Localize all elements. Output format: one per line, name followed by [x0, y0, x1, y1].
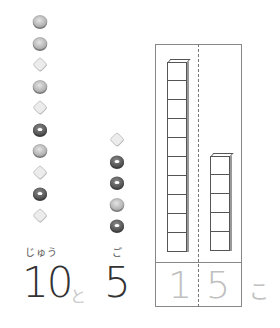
unit-block	[167, 62, 187, 81]
cookie-square-icon	[32, 100, 48, 116]
count-five: 5	[104, 262, 131, 304]
reading-go: ご	[112, 244, 123, 259]
answer-tens-digit[interactable]: 1	[168, 266, 192, 304]
count-ten: 10	[22, 262, 71, 304]
ones-block-bar	[210, 153, 230, 251]
connector-to: と	[70, 283, 86, 307]
cookie-ring-icon	[109, 154, 125, 170]
unit-block	[210, 213, 230, 232]
block-top-face	[168, 59, 191, 62]
cookie-ring-icon	[32, 122, 48, 138]
unit-block	[210, 232, 230, 251]
unit-block	[167, 195, 187, 214]
cookie-round-icon	[109, 197, 125, 213]
cookie-square-icon	[32, 165, 48, 181]
unit-block	[210, 194, 230, 213]
cookie-ring-icon	[32, 186, 48, 202]
counter-ko: こ	[249, 282, 269, 302]
block-top-face	[211, 153, 234, 156]
place-divider-dashed	[198, 44, 199, 307]
unit-block	[167, 81, 187, 100]
cookie-square-icon	[109, 132, 125, 148]
cookie-round-icon	[32, 14, 48, 30]
unit-block	[210, 175, 230, 194]
cookie-round-icon	[32, 79, 48, 95]
cookie-round-icon	[32, 143, 48, 159]
cookie-round-icon	[32, 36, 48, 52]
unit-block	[210, 156, 230, 175]
cookie-square-icon	[32, 208, 48, 224]
unit-block	[167, 138, 187, 157]
unit-block	[167, 100, 187, 119]
unit-block	[167, 233, 187, 252]
unit-block	[167, 176, 187, 195]
tens-block-bar	[167, 59, 187, 252]
reading-juu: じゅう	[25, 244, 58, 259]
unit-block	[167, 214, 187, 233]
cookie-ring-icon	[109, 218, 125, 234]
unit-block	[167, 157, 187, 176]
cookie-square-icon	[32, 57, 48, 73]
unit-block	[167, 119, 187, 138]
answer-ones-digit[interactable]: 5	[206, 266, 230, 304]
cookie-ring-icon	[109, 175, 125, 191]
